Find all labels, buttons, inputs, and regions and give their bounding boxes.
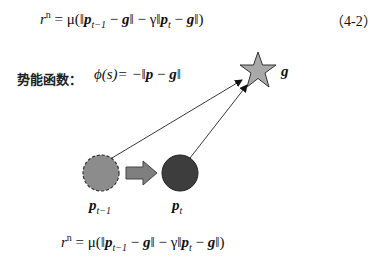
eq-text: − [192, 234, 208, 250]
eq-p-prev: p [105, 234, 113, 250]
previous-position-circle [83, 155, 119, 191]
move-arrow-icon [126, 161, 157, 185]
eq-sub: t−1 [113, 242, 128, 253]
reward-equation-bottom: rn = μ(‖pt−1 − g‖ − γ‖pt − g‖) [61, 232, 225, 253]
eq-text: ‖) [215, 234, 224, 250]
label-p: p [89, 197, 97, 213]
goal-star-icon [240, 52, 276, 87]
goal-label-text: g [281, 63, 289, 79]
eq-g: g [143, 234, 151, 250]
label-p: p [172, 197, 180, 213]
current-position-label: pt [172, 197, 182, 216]
goal-label: g [281, 63, 289, 80]
eq-text: = μ(‖ [72, 234, 105, 250]
eq-text: − [127, 234, 143, 250]
current-position-circle [162, 155, 198, 191]
eq-p-curr: p [182, 234, 190, 250]
label-sub: t [180, 205, 183, 216]
label-sub: t−1 [97, 205, 112, 216]
arrow-curr-to-goal [190, 85, 247, 158]
eq-text: ‖ − γ‖ [151, 234, 182, 250]
previous-position-label: pt−1 [89, 197, 111, 216]
arrow-prev-to-goal [112, 80, 242, 158]
